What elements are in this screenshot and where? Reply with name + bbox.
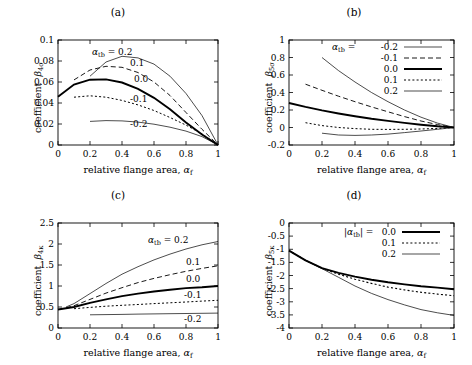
svg-text:-0.2: -0.2 — [268, 140, 285, 150]
svg-text:-1: -1 — [276, 244, 285, 254]
svg-text:0.2: 0.2 — [83, 332, 97, 342]
svg-text:0.6: 0.6 — [147, 149, 162, 159]
legend-b-item-p01: 0.1 — [384, 75, 398, 85]
label-c-zero: 0.0 — [186, 274, 201, 284]
curve-d-p01 — [289, 251, 454, 296]
svg-text:0.8: 0.8 — [179, 149, 194, 159]
svg-text:0: 0 — [279, 218, 285, 228]
legend-d-head: |αtb| = — [344, 227, 373, 239]
panel-b-legend: αtb = -0.2 -0.1 0.0 0.1 0.2 — [332, 42, 442, 96]
svg-text:0.1: 0.1 — [40, 35, 54, 45]
figure-four-panel: (a) 00.02 0.040.06 — [0, 0, 472, 365]
panel-b: (b) -0.20 — [236, 0, 472, 182]
curve-b-zero — [289, 103, 454, 128]
svg-text:2.5: 2.5 — [40, 218, 55, 228]
svg-text:0.4: 0.4 — [348, 332, 363, 342]
label-c-m01: -0.1 — [184, 290, 201, 300]
panel-a-xtick-labels: 00.20.4 0.60.81 — [55, 149, 221, 159]
panel-b-xlabel: relative flange area, αf — [289, 164, 454, 177]
svg-text:0.8: 0.8 — [414, 332, 429, 342]
legend-d-item-02: 0.2 — [382, 249, 396, 259]
svg-text:0.6: 0.6 — [381, 149, 396, 159]
svg-text:-3: -3 — [276, 297, 285, 307]
svg-text:0: 0 — [48, 140, 54, 150]
panel-d-curves — [289, 251, 454, 316]
legend-b-item-p02: 0.2 — [384, 86, 398, 96]
svg-text:1: 1 — [215, 332, 221, 342]
panel-c-ylabel: coefficient β4κ — [32, 245, 45, 316]
panel-a-xlabel: relative flange area, αf — [58, 164, 218, 177]
svg-text:1: 1 — [48, 281, 54, 291]
svg-text:-0.5: -0.5 — [268, 231, 286, 241]
label-a-p01: 0.1 — [130, 58, 144, 68]
panel-d-ticks — [289, 223, 454, 328]
panel-d-legend: |αtb| = 0.0 0.1 0.2 — [344, 227, 440, 259]
label-c-p02: αtb = 0.2 — [148, 235, 188, 247]
svg-text:0.2: 0.2 — [83, 149, 97, 159]
svg-text:0.6: 0.6 — [147, 332, 162, 342]
panel-b-xtick-labels: 00.20.4 0.60.81 — [286, 149, 457, 159]
panel-d-frame — [289, 223, 454, 328]
svg-text:0: 0 — [55, 149, 61, 159]
panel-d-xlabel: relative flange area, αf — [289, 347, 454, 360]
legend-b-head: αtb = — [332, 42, 355, 54]
label-a-m02: -0.2 — [130, 119, 147, 129]
panel-a-inline-labels: αtb = 0.2 0.1 0.0 -0.1 -0.2 — [92, 47, 149, 129]
svg-text:0.2: 0.2 — [315, 332, 329, 342]
legend-b-item-m01: -0.1 — [381, 53, 398, 63]
panel-b-ylabel: coefficient β5σ — [263, 62, 276, 133]
svg-text:0: 0 — [55, 332, 61, 342]
panel-d: (d) — [236, 183, 472, 365]
svg-text:0.6: 0.6 — [381, 332, 396, 342]
svg-text:0.4: 0.4 — [115, 149, 130, 159]
svg-text:0: 0 — [279, 123, 285, 133]
label-a-zero: 0.0 — [134, 74, 149, 84]
label-c-p01: 0.1 — [186, 257, 200, 267]
panel-c-xlabel: relative flange area, αf — [58, 347, 218, 360]
panel-c: (c) 00.5 11.5 22.5 — [0, 183, 236, 365]
svg-text:0.8: 0.8 — [271, 53, 286, 63]
svg-text:0.4: 0.4 — [115, 332, 130, 342]
legend-d-item-01: 0.1 — [382, 238, 396, 248]
svg-text:0: 0 — [286, 332, 292, 342]
legend-b-item-zero: 0.0 — [384, 64, 399, 74]
svg-text:1: 1 — [215, 149, 221, 159]
panel-d-xtick-labels: 00.20.4 0.60.81 — [286, 332, 457, 342]
svg-text:2: 2 — [48, 239, 54, 249]
panel-a: (a) 00.02 0.040.06 — [0, 0, 236, 182]
svg-text:1: 1 — [451, 332, 457, 342]
panel-d-ylabel: coefficient β5κ — [263, 245, 276, 316]
curve-a-zero — [58, 79, 218, 145]
curve-b-p02 — [322, 128, 454, 136]
svg-text:0.8: 0.8 — [414, 149, 429, 159]
svg-text:0.8: 0.8 — [179, 332, 194, 342]
svg-text:1: 1 — [451, 149, 457, 159]
svg-text:-2: -2 — [276, 271, 285, 281]
label-a-m01: -0.1 — [130, 94, 147, 104]
svg-text:0.4: 0.4 — [348, 149, 363, 159]
panel-a-ylabel: coefficient β4σ — [32, 62, 45, 133]
legend-d-item-00: 0.0 — [382, 227, 397, 237]
svg-text:1: 1 — [279, 35, 285, 45]
label-c-m02: -0.2 — [184, 314, 201, 324]
legend-b-item-m02: -0.2 — [381, 42, 398, 52]
svg-text:0: 0 — [286, 149, 292, 159]
svg-text:0: 0 — [48, 323, 54, 333]
panel-c-inline-labels: αtb = 0.2 0.1 0.0 -0.1 -0.2 — [148, 235, 201, 324]
svg-text:-4: -4 — [276, 323, 285, 333]
panel-c-xtick-labels: 00.20.4 0.60.81 — [55, 332, 221, 342]
svg-text:0.2: 0.2 — [315, 149, 329, 159]
label-a-p02: αtb = 0.2 — [92, 47, 132, 59]
